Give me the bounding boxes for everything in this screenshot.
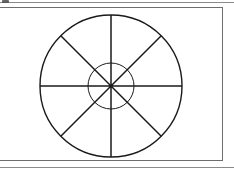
wheel-group bbox=[40, 15, 182, 157]
wheel-hub-dot bbox=[109, 84, 113, 88]
wheel-diagram bbox=[0, 0, 234, 169]
page-canvas: wheel diagram figure bbox=[0, 0, 234, 169]
page-bottom-rule bbox=[0, 167, 234, 168]
